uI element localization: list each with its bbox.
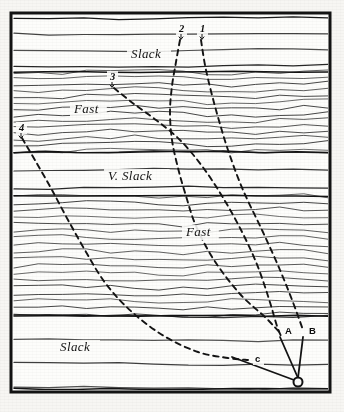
slack-bottom: Slack <box>60 339 90 354</box>
fast-upper: Fast <box>73 101 99 116</box>
v-slack: V. Slack <box>108 168 152 183</box>
slack-top: Slack <box>131 46 161 61</box>
origin-circle <box>294 378 303 387</box>
marker-2: 2 <box>178 23 185 34</box>
strata-diagram: SlackFastV. SlackFastSlack 1234 ABc <box>0 0 344 412</box>
strata-band-boundary <box>14 71 328 72</box>
marker-1: 1 <box>200 23 205 34</box>
origin-marker <box>294 378 303 387</box>
marker-3: 3 <box>109 71 115 82</box>
point-b: B <box>309 325 316 336</box>
point-c: c <box>255 353 260 364</box>
point-a: A <box>285 325 292 336</box>
figure-root: SlackFastV. SlackFastSlack 1234 ABc <box>0 0 344 412</box>
fast-lower: Fast <box>185 224 211 239</box>
marker-4: 4 <box>18 122 24 133</box>
